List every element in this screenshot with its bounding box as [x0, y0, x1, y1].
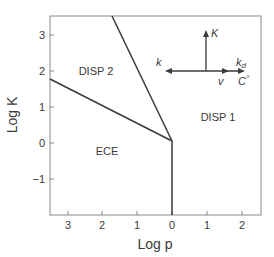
x-tick-label: 2	[99, 219, 105, 231]
x-tick-label: 0	[169, 219, 175, 231]
zone-boundaries	[50, 16, 172, 215]
boundary-disp2-disp1	[112, 16, 172, 141]
boundary-disp2-ece	[50, 79, 172, 141]
y-tick-label: 0	[39, 137, 45, 149]
x-tick-label: 1	[134, 219, 140, 231]
y-tick-label: −1	[32, 173, 45, 185]
zone-diagram: 3 2 1 0 −1 3 2 1 0 1 2 Log p Log K DISP …	[0, 0, 274, 257]
inset-label-K: K	[211, 27, 219, 39]
x-axis-ticks	[68, 211, 242, 215]
inset-labels: K k kd v C°	[156, 27, 250, 87]
y-tick-label: 2	[39, 65, 45, 77]
x-tick-label: 2	[239, 219, 245, 231]
region-label-disp1: DISP 1	[201, 111, 236, 123]
y-axis-tick-labels: 3 2 1 0 −1	[32, 29, 45, 185]
arrow-up-icon	[203, 30, 209, 37]
region-label-ece: ECE	[96, 145, 119, 157]
y-tick-label: 1	[39, 101, 45, 113]
y-axis-label: Log K	[4, 96, 20, 133]
parameter-arrows-inset	[165, 30, 245, 74]
x-tick-label: 3	[65, 219, 71, 231]
inset-label-k: k	[156, 56, 162, 68]
inset-label-kd: kd	[236, 56, 247, 70]
inset-label-v: v	[218, 75, 225, 87]
x-tick-label: 1	[204, 219, 210, 231]
y-tick-label: 3	[39, 29, 45, 41]
y-axis-ticks	[50, 35, 54, 179]
x-axis-tick-labels: 3 2 1 0 1 2	[65, 219, 245, 231]
arrow-left-icon	[165, 68, 172, 74]
region-label-disp2: DISP 2	[79, 65, 114, 77]
inset-label-C0: C°	[238, 74, 250, 87]
x-axis-label: Log p	[137, 236, 172, 252]
arrow-right-icon	[222, 68, 229, 74]
